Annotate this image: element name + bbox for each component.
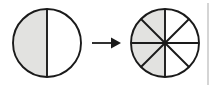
left-circle-sector-shaded: [13, 9, 47, 77]
one-half-circle: [13, 9, 81, 77]
transformation-arrow: [92, 38, 121, 49]
four-eighths-circle: [131, 9, 199, 77]
left-circle-sector-empty: [47, 9, 81, 77]
fraction-equivalence-figure: [0, 0, 214, 88]
arrow-head-icon: [111, 38, 121, 49]
right-circle-dividers: [131, 9, 199, 77]
figure-canvas: [0, 0, 214, 88]
